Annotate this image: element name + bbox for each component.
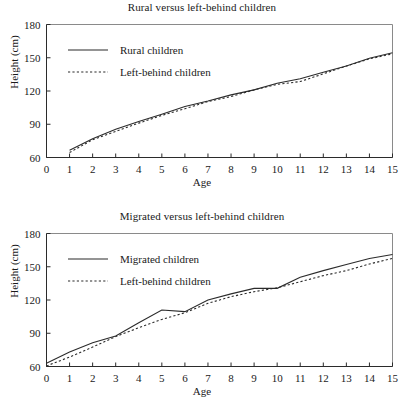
x-tick-label: 15 [387, 163, 399, 175]
x-tick-label: 2 [90, 163, 96, 175]
plot-area-top: 60901201501800123456789101112131415Rural… [0, 0, 404, 209]
legend-label-2: Left-behind children [120, 275, 211, 287]
x-tick-label: 8 [228, 372, 234, 384]
x-tick-label: 1 [67, 372, 73, 384]
x-tick-label: 5 [159, 163, 165, 175]
x-tick-label: 9 [251, 372, 257, 384]
x-tick-label: 6 [182, 163, 188, 175]
plot-area-bottom: 60901201501800123456789101112131415Migra… [0, 209, 404, 418]
x-tick-label: 11 [295, 163, 306, 175]
x-tick-label: 0 [44, 163, 50, 175]
x-tick-label: 13 [341, 163, 353, 175]
x-tick-label: 6 [182, 372, 188, 384]
x-tick-label: 10 [272, 163, 284, 175]
x-tick-label: 14 [364, 163, 376, 175]
x-tick-label: 2 [90, 372, 96, 384]
x-tick-label: 12 [318, 372, 329, 384]
y-tick-label: 90 [30, 327, 42, 339]
x-tick-label: 10 [272, 372, 284, 384]
x-tick-label: 4 [136, 163, 142, 175]
x-tick-label: 4 [136, 372, 142, 384]
x-tick-label: 15 [387, 372, 399, 384]
y-tick-label: 90 [30, 118, 42, 130]
y-tick-label: 60 [30, 152, 42, 164]
x-tick-label: 13 [341, 372, 353, 384]
legend-label-1: Migrated children [120, 253, 200, 265]
y-tick-label: 180 [24, 19, 41, 31]
y-tick-label: 150 [24, 261, 41, 273]
chart-migrated-vs-left-behind: Migrated versus left-behind children Hei… [0, 209, 404, 418]
y-tick-label: 60 [30, 361, 42, 373]
series-line-2 [47, 258, 393, 366]
x-tick-label: 8 [228, 163, 234, 175]
x-tick-label: 14 [364, 372, 376, 384]
y-tick-label: 150 [24, 52, 41, 64]
series-line-2 [70, 54, 393, 153]
x-tick-label: 7 [205, 163, 211, 175]
chart-rural-vs-left-behind: Rural versus left-behind children Height… [0, 0, 404, 209]
series-line-1 [47, 255, 393, 364]
legend-label-1: Rural children [120, 44, 184, 56]
x-tick-label: 0 [44, 372, 50, 384]
y-tick-label: 180 [24, 228, 41, 240]
series-line-1 [70, 53, 393, 151]
x-tick-label: 12 [318, 163, 329, 175]
x-tick-label: 9 [251, 163, 257, 175]
legend-label-2: Left-behind children [120, 66, 211, 78]
x-tick-label: 7 [205, 372, 211, 384]
x-tick-label: 3 [113, 163, 119, 175]
y-tick-label: 120 [24, 85, 41, 97]
y-tick-label: 120 [24, 294, 41, 306]
x-tick-label: 3 [113, 372, 119, 384]
x-tick-label: 5 [159, 372, 165, 384]
x-tick-label: 11 [295, 372, 306, 384]
x-tick-label: 1 [67, 163, 73, 175]
